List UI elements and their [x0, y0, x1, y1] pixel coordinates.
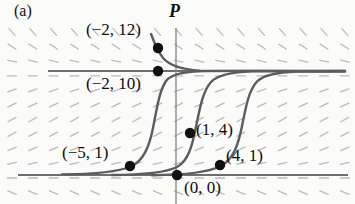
slope-tick — [237, 89, 246, 92]
slope-tick — [320, 191, 328, 195]
slope-tick — [236, 60, 245, 62]
point-label-2: (−5, 1) — [62, 143, 108, 163]
panel-label: (a) — [14, 2, 32, 20]
direction-field — [8, 29, 350, 195]
slope-tick — [238, 29, 244, 36]
slope-tick — [8, 117, 16, 121]
slope-tick — [278, 89, 287, 92]
slope-tick — [278, 60, 287, 62]
slope-tick — [341, 117, 349, 121]
slope-tick — [30, 29, 36, 36]
slope-tick — [132, 60, 141, 62]
slope-tick — [50, 132, 58, 136]
slope-tick — [320, 44, 328, 49]
slope-tick — [29, 117, 37, 121]
point-label-1: (−2, 10) — [86, 74, 141, 94]
slope-tick — [195, 147, 203, 150]
slope-tick — [133, 117, 141, 121]
slope-tick — [216, 44, 224, 49]
slope-tick — [8, 44, 16, 49]
slope-tick — [29, 103, 37, 107]
figure-panel: (a) P (−2, 12)(−2, 10)(−5, 1)(1, 4)(4, 1… — [0, 0, 355, 204]
slope-tick — [49, 162, 58, 164]
slope-tick — [195, 44, 203, 49]
slope-tick — [28, 162, 37, 164]
slope-tick — [112, 191, 120, 195]
slope-tick — [320, 132, 328, 136]
slope-tick — [112, 162, 121, 164]
slope-tick — [258, 132, 266, 136]
slope-tick — [29, 89, 38, 92]
slope-tick — [112, 103, 120, 107]
slope-tick — [28, 60, 37, 62]
slope-tick — [341, 191, 349, 195]
slope-tick — [112, 117, 120, 121]
slope-tick — [237, 191, 245, 195]
slope-tick — [258, 44, 266, 49]
slope-tick — [341, 89, 350, 92]
point-label-0: (−2, 12) — [86, 20, 141, 40]
slope-tick — [300, 29, 306, 36]
slope-tick — [278, 103, 286, 107]
slope-tick — [155, 29, 161, 36]
point-label-5: (0, 0) — [184, 178, 221, 198]
slope-tick — [133, 147, 141, 150]
slope-tick — [195, 60, 204, 62]
slope-tick — [112, 44, 120, 49]
slope-tick — [29, 44, 37, 49]
slope-tick — [216, 89, 225, 92]
slope-tick — [70, 89, 79, 92]
slope-tick — [112, 132, 120, 136]
slope-tick — [278, 117, 286, 121]
slope-tick — [320, 117, 328, 121]
slope-tick — [258, 117, 266, 121]
slope-tick — [154, 132, 162, 136]
slope-tick — [91, 191, 99, 195]
slope-tick — [257, 60, 266, 62]
slope-tick — [299, 191, 307, 195]
slope-tick — [91, 60, 100, 62]
slope-tick — [8, 132, 16, 136]
point-label-3: (1, 4) — [196, 120, 233, 140]
slope-tick — [320, 60, 329, 62]
slope-tick — [217, 29, 223, 36]
slope-tick — [91, 103, 99, 107]
point-label-4: (4, 1) — [226, 146, 263, 166]
data-point-dot — [172, 170, 182, 180]
slope-tick — [8, 162, 17, 164]
data-point-dot — [125, 161, 135, 171]
slope-tick — [257, 191, 265, 195]
slope-tick — [237, 103, 245, 107]
slope-tick — [50, 103, 58, 107]
axis-label-p: P — [169, 1, 180, 22]
slope-tick — [49, 89, 58, 92]
slope-tick — [195, 162, 204, 164]
curve-through-minus2-12 — [151, 34, 345, 71]
slope-tick — [216, 147, 224, 150]
slope-tick — [299, 162, 308, 164]
slope-tick — [70, 132, 78, 136]
slope-tick — [8, 60, 17, 62]
slope-tick — [196, 29, 202, 36]
slope-tick — [49, 147, 57, 150]
slope-tick — [91, 117, 99, 121]
slope-tick — [341, 147, 349, 150]
slope-tick — [8, 103, 16, 107]
slope-tick — [278, 191, 286, 195]
slope-tick — [341, 132, 349, 136]
slope-tick — [299, 117, 307, 121]
slope-tick — [320, 103, 328, 107]
slope-tick — [153, 147, 161, 150]
slope-tick — [279, 29, 285, 36]
slope-tick — [278, 132, 286, 136]
slope-tick — [279, 44, 287, 49]
slope-tick — [133, 191, 141, 195]
slope-tick — [29, 191, 37, 195]
slope-tick — [70, 60, 79, 62]
slope-tick — [258, 103, 266, 107]
slope-tick — [320, 162, 329, 164]
slope-tick — [320, 147, 328, 150]
slope-tick — [70, 191, 78, 195]
slope-tick — [50, 117, 58, 121]
slope-tick — [8, 89, 17, 92]
